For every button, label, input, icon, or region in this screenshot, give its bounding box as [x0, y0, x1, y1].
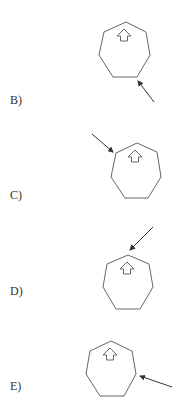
pointer-arrow-icon: [140, 376, 172, 387]
up-arrow-icon: [103, 348, 117, 360]
option-c-figure: [92, 134, 161, 198]
up-arrow-icon: [128, 150, 142, 162]
option-b-figure: [99, 22, 154, 102]
pointer-arrow-icon: [138, 81, 154, 102]
option-e-figure: [86, 341, 172, 396]
pointer-arrow-icon: [130, 227, 153, 250]
up-arrow-icon: [120, 262, 134, 274]
option-d-figure: [103, 227, 153, 309]
pointer-arrow-icon: [92, 134, 113, 152]
heptagon-diagrams: [0, 0, 179, 415]
up-arrow-icon: [117, 29, 131, 41]
